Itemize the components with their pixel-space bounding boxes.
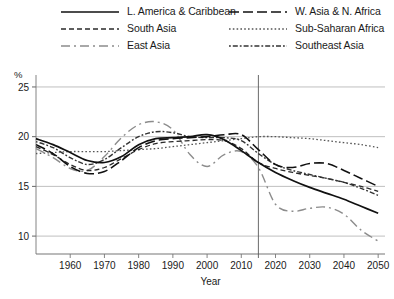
legend-item-southeast-asia[interactable]: Southeast Asia — [228, 40, 364, 51]
y-axis-tick-label: 20 — [18, 131, 30, 142]
x-axis-tick-label: 2000 — [196, 260, 219, 271]
x-axis-title: Year — [200, 276, 221, 287]
legend-item-label: Southeast Asia — [295, 40, 364, 51]
series-line-east-asia — [36, 121, 378, 241]
x-axis-tick-label: 2040 — [333, 260, 356, 271]
x-axis-tick-label: 2010 — [230, 260, 253, 271]
legend-line-swatch — [60, 41, 120, 51]
legend-line-swatch — [228, 41, 288, 51]
legend-item-sub-saharan-africa[interactable]: Sub-Saharan Africa — [228, 23, 384, 34]
x-axis-tick-label: 2050 — [367, 260, 390, 271]
x-axis-tick-label: 1970 — [93, 260, 116, 271]
legend-item-w-asia-n-africa[interactable]: W. Asia & N. Africa — [228, 6, 381, 17]
legend-item-label: South Asia — [127, 23, 176, 34]
legend-line-swatch — [60, 7, 120, 17]
legend-item-label: Sub-Saharan Africa — [295, 23, 384, 34]
x-axis-tick-label: 2020 — [264, 260, 287, 271]
legend-item-south-asia[interactable]: South Asia — [60, 23, 176, 34]
y-axis-unit-label: % — [14, 69, 23, 80]
series-line-south-asia — [36, 140, 378, 192]
series-line-sub-saharan-africa — [36, 136, 378, 153]
legend-line-swatch — [60, 24, 120, 34]
y-axis-tick-label: 25 — [18, 82, 30, 93]
legend-item-label: East Asia — [127, 40, 170, 51]
chart-page: L. America & CaribbeanSouth AsiaEast Asi… — [0, 0, 394, 299]
x-axis-tick-label: 1990 — [162, 260, 185, 271]
legend-item-label: W. Asia & N. Africa — [295, 6, 381, 17]
legend-item-east-asia[interactable]: East Asia — [60, 40, 170, 51]
legend-line-swatch — [228, 24, 288, 34]
y-axis-tick-label: 15 — [18, 181, 30, 192]
x-axis-tick-label: 1980 — [128, 260, 151, 271]
legend-line-swatch — [228, 7, 288, 17]
line-chart-svg: 10152025%1960197019801990200020102020203… — [0, 52, 394, 299]
y-axis-tick-label: 10 — [18, 231, 30, 242]
x-axis-tick-label: 2030 — [299, 260, 322, 271]
legend-item-label: L. America & Caribbean — [127, 6, 236, 17]
series-line-southeast-asia — [36, 131, 378, 195]
chart-legend: L. America & CaribbeanSouth AsiaEast Asi… — [0, 6, 394, 56]
x-axis-tick-label: 1960 — [59, 260, 82, 271]
legend-item-l-america-caribbean[interactable]: L. America & Caribbean — [60, 6, 236, 17]
chart-plot-area: 10152025%1960197019801990200020102020203… — [0, 52, 394, 299]
